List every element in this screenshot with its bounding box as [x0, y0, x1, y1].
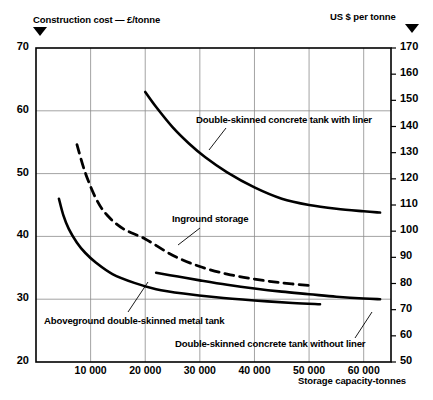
- y-tick-left-70: 70: [3, 40, 29, 52]
- curve-0: [145, 92, 380, 213]
- chart-figure: Construction cost — £/tonne US $ per ton…: [0, 0, 433, 400]
- ann-noliner: Double-skinned concrete tank without lin…: [175, 338, 365, 349]
- y-tick-left-20: 20: [3, 354, 29, 366]
- ann-metal: Aboveground double-skinned metal tank: [44, 315, 224, 326]
- y-tick-right-90: 90: [400, 249, 430, 261]
- ann-inground: Inground storage: [172, 213, 248, 224]
- x-tick-40000: 40 000: [224, 364, 284, 376]
- x-tick-10000: 10 000: [61, 364, 121, 376]
- annotation-leader-lines: [128, 128, 372, 338]
- y-tick-right-80: 80: [400, 276, 430, 288]
- y-tick-right-150: 150: [400, 92, 430, 104]
- x-tick-20000: 20 000: [115, 364, 175, 376]
- y-tick-right-160: 160: [400, 66, 430, 78]
- y-tick-left-60: 60: [3, 103, 29, 115]
- y-tick-right-140: 140: [400, 119, 430, 131]
- y-tick-left-30: 30: [3, 291, 29, 303]
- y-tick-left-50: 50: [3, 166, 29, 178]
- x-tick-60000: 60 000: [334, 364, 394, 376]
- y-tick-right-60: 60: [400, 328, 430, 340]
- ann-liner: Double-skinned concrete tank with liner: [196, 114, 372, 125]
- y-tick-right-100: 100: [400, 223, 430, 235]
- leader-line-0: [209, 128, 226, 150]
- x-tick-30000: 30 000: [170, 364, 230, 376]
- y-tick-left-40: 40: [3, 228, 29, 240]
- y-tick-right-130: 130: [400, 145, 430, 157]
- y-tick-right-110: 110: [400, 197, 430, 209]
- x-tick-50000: 50 000: [279, 364, 339, 376]
- y-tick-right-50: 50: [400, 354, 430, 366]
- y-tick-right-70: 70: [400, 302, 430, 314]
- y-tick-right-120: 120: [400, 171, 430, 183]
- y-tick-right-170: 170: [400, 40, 430, 52]
